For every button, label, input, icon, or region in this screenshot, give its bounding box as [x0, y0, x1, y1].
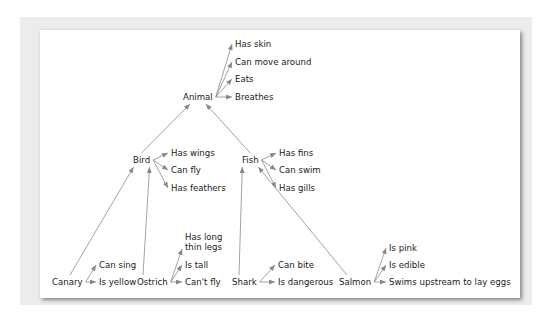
node-canary: Canary	[52, 277, 83, 287]
node-salmon: Salmon	[339, 277, 371, 287]
property-ostrich-1: Is tall	[185, 260, 208, 270]
property-shark-0: Can bite	[278, 260, 314, 270]
property-salmon-0: Is pink	[389, 243, 417, 253]
property-shark-1: Is dangerous	[278, 277, 333, 287]
property-bird-1: Can fly	[171, 165, 201, 175]
property-animal-2: Eats	[235, 74, 254, 84]
property-salmon-2: Swims upstream to lay eggs	[389, 277, 511, 287]
property-fish-0: Has fins	[279, 148, 313, 158]
node-shark: Shark	[232, 277, 257, 287]
property-canary-1: Is yellow	[99, 277, 136, 287]
property-animal-1: Can move around	[235, 57, 311, 67]
property-fish-2: Has gills	[279, 183, 315, 193]
property-fish-1: Can swim	[279, 165, 321, 175]
property-ostrich-2: Can't fly	[185, 277, 221, 287]
property-canary-0: Can sing	[99, 260, 136, 270]
property-animal-0: Has skin	[235, 39, 271, 49]
property-animal-3: Breathes	[235, 92, 273, 102]
node-bird: Bird	[133, 155, 150, 165]
property-ostrich-0: Has long thin legs	[185, 232, 222, 252]
property-salmon-1: Is edible	[389, 260, 425, 270]
node-ostrich: Ostrich	[137, 277, 168, 287]
property-bird-0: Has wings	[171, 148, 215, 158]
property-bird-2: Has feathers	[171, 183, 226, 193]
node-fish: Fish	[242, 155, 259, 165]
node-animal: Animal	[183, 92, 213, 102]
